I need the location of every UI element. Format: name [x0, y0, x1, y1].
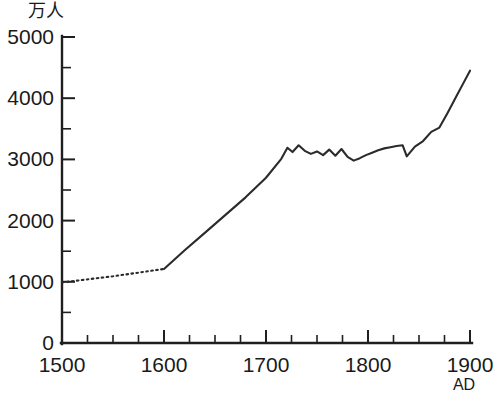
y-tick-label: 1000 — [7, 270, 54, 293]
x-tick-label: 1600 — [141, 353, 188, 376]
x-axis-labels: 15001600170018001900 — [39, 353, 494, 376]
y-axis-minor-ticks — [62, 68, 71, 313]
x-axis-ticks — [62, 330, 470, 343]
y-tick-label: 2000 — [7, 209, 54, 232]
y-tick-label: 0 — [42, 331, 54, 354]
x-tick-label: 1700 — [243, 353, 290, 376]
data-line-observed — [164, 71, 470, 269]
chart-svg: 万人 010002000300040005000 150016001700180… — [0, 0, 494, 413]
y-tick-label: 5000 — [7, 25, 54, 48]
population-chart-figure: 万人 010002000300040005000 150016001700180… — [0, 0, 494, 413]
x-tick-label: 1800 — [345, 353, 392, 376]
axes — [61, 36, 472, 344]
data-line-estimated — [62, 269, 164, 282]
x-tick-label: 1500 — [39, 353, 86, 376]
x-tick-label: 1900 — [447, 353, 494, 376]
x-axis-era-label: AD — [453, 376, 475, 393]
y-axis-unit-label: 万人 — [28, 0, 64, 21]
y-tick-label: 4000 — [7, 86, 54, 109]
y-axis-labels: 010002000300040005000 — [7, 25, 54, 354]
y-tick-label: 3000 — [7, 147, 54, 170]
